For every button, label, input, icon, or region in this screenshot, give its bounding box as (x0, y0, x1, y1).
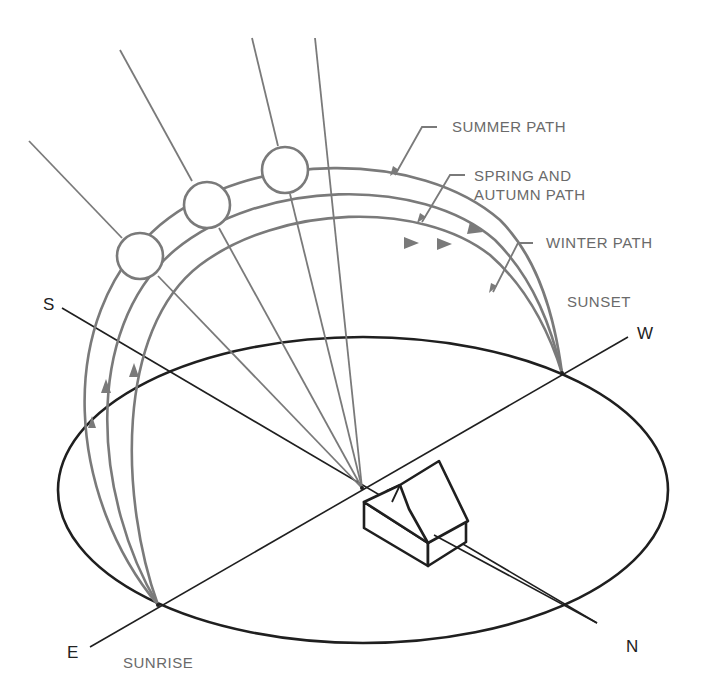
sunrise-label: SUNRISE (123, 654, 193, 672)
leader-lines (395, 127, 533, 292)
summer-noon-sun-icon (262, 147, 308, 193)
winter-noon-sun-icon (117, 233, 163, 279)
arrow-up-winter-icon (129, 363, 139, 377)
direction-south: S (43, 296, 55, 314)
sun-path-diagram (0, 0, 709, 694)
summer-path-label: SUMMER PATH (452, 118, 566, 136)
house-icon (364, 461, 468, 566)
equinox-noon-sun-icon (184, 182, 230, 228)
observer-point (360, 486, 364, 490)
direction-west: W (637, 325, 654, 343)
sun-rays (29, 38, 362, 488)
suns (117, 147, 308, 279)
winter-path-arc (132, 217, 562, 605)
sunset-point (560, 371, 564, 375)
winter-path-label: WINTER PATH (546, 234, 653, 252)
direction-north: N (626, 638, 639, 656)
summer-path-arc (85, 168, 562, 605)
sunrise-point (156, 603, 160, 607)
sunset-label: SUNSET (567, 293, 631, 311)
arrow-right-spring-icon (437, 238, 452, 250)
direction-east: E (67, 644, 79, 662)
north-axis-front (434, 535, 597, 623)
spring-autumn-path-arc (107, 194, 562, 605)
arrow-right-winter-icon (404, 237, 419, 249)
east-west-axis (90, 337, 628, 647)
spring-autumn-label-line1: SPRING AND (474, 167, 572, 185)
sun-paths (85, 168, 562, 605)
spring-autumn-label-line2: AUTUMN PATH (474, 186, 586, 204)
